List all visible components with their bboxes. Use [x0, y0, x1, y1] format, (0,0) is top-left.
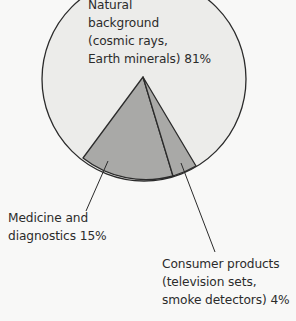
label-line: Consumer products	[162, 255, 290, 273]
label-line: Earth minerals) 81%	[88, 50, 211, 68]
label-line: Medicine and	[8, 209, 107, 227]
label-line: background	[88, 14, 211, 32]
label-line: smoke detectors) 4%	[162, 291, 290, 309]
leader-line-consumer	[181, 163, 215, 252]
label-line: diagnostics 15%	[8, 227, 107, 245]
label-line: Natural	[88, 0, 211, 14]
label-natural-background: Natural background (cosmic rays, Earth m…	[88, 0, 211, 68]
label-consumer-products: Consumer products (television sets, smok…	[162, 255, 290, 309]
label-medicine: Medicine and diagnostics 15%	[8, 209, 107, 245]
label-line: (television sets,	[162, 273, 290, 291]
label-line: (cosmic rays,	[88, 32, 211, 50]
